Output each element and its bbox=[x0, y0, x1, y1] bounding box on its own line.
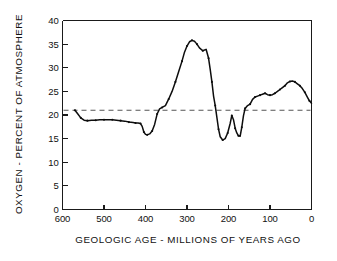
data-point bbox=[269, 94, 271, 96]
y-axis-tick-label: 20 bbox=[48, 109, 58, 120]
data-point bbox=[103, 119, 105, 121]
chart-canvas: 0510152025303540 6005004003002001000 OXY… bbox=[0, 0, 337, 261]
x-axis-tick-label: 200 bbox=[221, 213, 236, 224]
data-point bbox=[249, 103, 251, 105]
x-axis-tick-group bbox=[63, 205, 312, 210]
data-point bbox=[156, 113, 158, 115]
y-axis-tick-label: 30 bbox=[48, 62, 58, 73]
data-point bbox=[222, 139, 224, 141]
data-point bbox=[264, 92, 266, 94]
x-axis-tick-label: 0 bbox=[309, 213, 314, 224]
data-point bbox=[289, 80, 291, 82]
y-axis-tick-label: 15 bbox=[48, 133, 58, 144]
oxygen-curve-points bbox=[74, 39, 311, 141]
y-axis-tick-label: 35 bbox=[48, 39, 58, 50]
data-point bbox=[74, 109, 76, 111]
x-axis-tick-label: 400 bbox=[138, 213, 153, 224]
data-point bbox=[191, 39, 193, 41]
data-point bbox=[86, 120, 88, 122]
data-point bbox=[174, 81, 176, 83]
y-axis-tick-group bbox=[63, 21, 68, 210]
data-point bbox=[181, 60, 183, 62]
data-point bbox=[214, 105, 216, 107]
data-point bbox=[111, 119, 113, 121]
x-axis-tick-labels: 6005004003002001000 bbox=[55, 213, 314, 224]
y-axis-tick-label: 10 bbox=[48, 157, 58, 168]
y-axis-tick-label: 5 bbox=[53, 180, 58, 191]
data-point bbox=[294, 81, 296, 83]
data-point bbox=[161, 106, 163, 108]
data-point bbox=[202, 50, 204, 52]
data-point bbox=[234, 127, 236, 129]
data-point bbox=[231, 114, 233, 116]
data-point bbox=[128, 121, 130, 123]
data-point bbox=[146, 134, 148, 136]
data-point bbox=[168, 98, 170, 100]
y-axis-tick-labels: 0510152025303540 bbox=[48, 15, 58, 215]
data-point bbox=[284, 85, 286, 87]
data-point bbox=[308, 100, 310, 102]
data-point bbox=[95, 119, 97, 121]
data-point bbox=[217, 128, 219, 130]
data-point bbox=[304, 91, 306, 93]
data-point bbox=[254, 96, 256, 98]
data-point bbox=[120, 120, 122, 122]
data-point bbox=[274, 92, 276, 94]
data-point bbox=[244, 107, 246, 109]
data-point bbox=[299, 85, 301, 87]
y-axis-tick-label: 40 bbox=[48, 15, 58, 26]
data-point bbox=[227, 132, 229, 134]
x-axis-tick-label: 500 bbox=[96, 213, 111, 224]
y-axis-tick-label: 25 bbox=[48, 86, 58, 97]
data-point bbox=[241, 126, 243, 128]
data-point bbox=[80, 117, 82, 119]
data-point bbox=[134, 122, 136, 124]
data-point bbox=[237, 135, 239, 137]
data-point bbox=[143, 131, 145, 133]
data-point bbox=[279, 88, 281, 90]
x-axis-tick-label: 100 bbox=[262, 213, 277, 224]
x-axis-tick-label: 300 bbox=[179, 213, 194, 224]
oxygen-curve bbox=[75, 40, 312, 140]
data-point bbox=[186, 45, 188, 47]
data-point bbox=[211, 81, 213, 83]
data-point bbox=[259, 94, 261, 96]
data-point bbox=[139, 122, 141, 124]
x-axis-title: GEOLOGIC AGE - MILLIONS OF YEARS AGO bbox=[75, 234, 300, 245]
x-axis-tick-label: 600 bbox=[55, 213, 70, 224]
y-axis-title: OXYGEN - PERCENT OF ATMOSPHERE bbox=[13, 14, 24, 214]
data-point bbox=[208, 57, 210, 59]
oxygen-geologic-age-figure: 0510152025303540 6005004003002001000 OXY… bbox=[0, 0, 337, 261]
data-point bbox=[196, 43, 198, 45]
data-point bbox=[151, 130, 153, 132]
